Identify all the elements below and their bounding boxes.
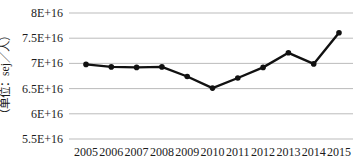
data-point-marker bbox=[159, 64, 165, 70]
data-point-marker bbox=[311, 61, 317, 67]
x-tick-label: 2005 bbox=[74, 145, 98, 159]
x-tick-label: 2006 bbox=[99, 145, 123, 159]
x-tick-label: 2008 bbox=[150, 145, 174, 159]
x-tick-label: 2015 bbox=[327, 145, 351, 159]
line-chart: 8E+167.5E+167E+166.5E+166E+165.5E+162005… bbox=[0, 0, 359, 168]
data-point-marker bbox=[109, 64, 115, 70]
data-point-marker bbox=[286, 50, 292, 56]
y-tick-label: 5.5E+16 bbox=[22, 132, 63, 146]
x-tick-label: 2009 bbox=[175, 145, 199, 159]
x-tick-label: 2010 bbox=[201, 145, 225, 159]
x-tick-label: 2011 bbox=[226, 145, 250, 159]
data-point-marker bbox=[83, 62, 89, 68]
data-point-marker bbox=[134, 65, 140, 71]
data-point-marker bbox=[336, 30, 342, 36]
data-point-marker bbox=[235, 75, 241, 81]
y-tick-label: 6.5E+16 bbox=[22, 82, 63, 96]
y-tick-label: 7.5E+16 bbox=[22, 31, 63, 45]
data-point-marker bbox=[260, 65, 266, 71]
y-tick-label: 7E+16 bbox=[31, 56, 63, 70]
y-axis-title: （单位：sej／人） bbox=[0, 30, 12, 120]
data-point-marker bbox=[210, 85, 216, 91]
x-tick-label: 2012 bbox=[251, 145, 275, 159]
x-tick-label: 2007 bbox=[125, 145, 149, 159]
y-tick-label: 6E+16 bbox=[31, 107, 63, 121]
y-tick-label: 8E+16 bbox=[31, 6, 63, 20]
data-point-marker bbox=[184, 74, 190, 80]
chart-canvas: 8E+167.5E+167E+166.5E+166E+165.5E+162005… bbox=[0, 0, 359, 168]
x-tick-label: 2013 bbox=[276, 145, 300, 159]
data-line bbox=[86, 33, 339, 88]
x-tick-label: 2014 bbox=[302, 145, 326, 159]
